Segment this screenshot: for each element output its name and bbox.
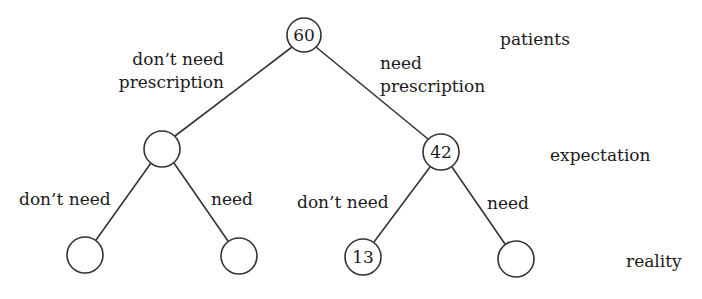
node-root: 60 (287, 18, 321, 52)
edge-label-root-left: don’t need prescription (112, 48, 224, 94)
node-reality-3: 13 (345, 239, 381, 275)
edge-label-left-left: don’t need (19, 188, 111, 211)
level-label-expectation: expectation (550, 144, 651, 167)
edge-label-root-right: need prescription (380, 52, 485, 98)
edge-label-root-right-line1: need (380, 52, 485, 75)
edge-label-root-left-line1: don’t need (112, 48, 224, 71)
node-reality-3-value: 13 (352, 247, 374, 267)
node-root-value: 60 (293, 25, 315, 45)
node-reality-4 (498, 241, 534, 277)
node-expectation-need: 42 (423, 134, 459, 170)
node-reality-1 (67, 237, 103, 273)
node-expectation-dont-need (144, 131, 180, 167)
edge-label-root-left-line2: prescription (112, 71, 224, 94)
node-reality-2 (221, 238, 257, 274)
edge-label-root-right-line2: prescription (380, 75, 485, 98)
edge-label-right-left: don’t need (297, 191, 389, 214)
level-label-patients: patients (500, 28, 570, 51)
probability-tree-diagram: 60 42 13 don’t need prescription (0, 0, 702, 299)
level-label-reality: reality (626, 250, 682, 273)
node-expectation-need-value: 42 (430, 142, 452, 162)
edge-label-left-right: need (211, 188, 253, 211)
edge-label-right-right: need (487, 192, 529, 215)
